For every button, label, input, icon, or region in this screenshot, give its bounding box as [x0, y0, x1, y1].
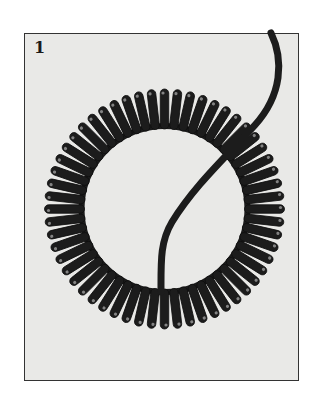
coil-loop-highlight	[47, 209, 50, 212]
coil-loop	[245, 205, 285, 214]
coil-ring	[45, 89, 285, 329]
coil-loop-highlight	[164, 323, 167, 326]
coiled-cord-illustration	[0, 0, 325, 394]
coil-loop	[160, 89, 169, 129]
coil-loop-highlight	[279, 206, 282, 209]
coil-loop-highlight	[161, 91, 164, 94]
coil-loop	[45, 205, 85, 214]
